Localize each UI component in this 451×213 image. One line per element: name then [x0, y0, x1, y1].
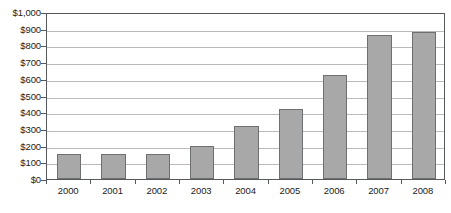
x-axis-tick-mark	[90, 180, 91, 184]
y-axis-tick-label: $1,000	[13, 8, 41, 18]
bar	[323, 75, 347, 179]
y-axis-tick-label: $200	[20, 142, 41, 152]
y-axis-tick-labels: $0$100$200$300$400$500$600$700$800$900$1…	[0, 0, 44, 213]
x-axis-tick-label: 2008	[412, 186, 433, 196]
x-axis-tick-mark	[46, 180, 47, 184]
y-axis-tick-label: $800	[20, 42, 41, 52]
bar	[412, 32, 436, 179]
x-axis-tick-mark	[179, 180, 180, 184]
x-axis-tick-mark	[312, 180, 313, 184]
bar	[279, 109, 303, 179]
plot-area	[46, 13, 445, 180]
y-axis-tick-label: $500	[20, 92, 41, 102]
bar	[146, 154, 170, 179]
bar	[57, 154, 81, 179]
y-axis-tick-label: $900	[20, 25, 41, 35]
y-axis-tick-label: $100	[20, 159, 41, 169]
x-axis-tick-mark	[135, 180, 136, 184]
y-axis-tick-label: $600	[20, 75, 41, 85]
y-axis-tick-label: $300	[20, 125, 41, 135]
bar-series	[47, 14, 444, 179]
bar-chart: $0$100$200$300$400$500$600$700$800$900$1…	[0, 0, 451, 213]
x-axis-tick-mark	[401, 180, 402, 184]
x-axis-tick-mark	[223, 180, 224, 184]
y-axis-tick-label: $700	[20, 58, 41, 68]
x-axis-tick-mark	[268, 180, 269, 184]
x-axis-tick-label: 2001	[102, 186, 123, 196]
x-axis-tick-labels: 200020012002200320042005200620072008	[46, 186, 445, 202]
x-axis-tick-label: 2005	[279, 186, 300, 196]
bar	[101, 154, 125, 179]
x-axis-tick-mark	[445, 180, 446, 184]
x-axis-tick-label: 2002	[146, 186, 167, 196]
x-axis-tick-label: 2000	[58, 186, 79, 196]
y-axis-tick-label: $400	[20, 108, 41, 118]
bar	[190, 146, 214, 179]
bar	[234, 126, 258, 179]
x-axis-tick-mark	[356, 180, 357, 184]
x-axis-tick-label: 2004	[235, 186, 256, 196]
x-axis-tick-label: 2003	[191, 186, 212, 196]
x-axis-tick-label: 2006	[324, 186, 345, 196]
bar	[367, 35, 391, 179]
x-axis-tick-label: 2007	[368, 186, 389, 196]
